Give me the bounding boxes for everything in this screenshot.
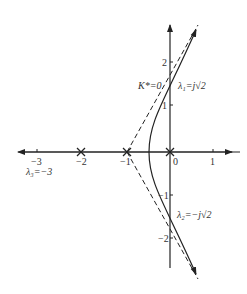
lambda1-label: λ₁=j√2 xyxy=(177,80,206,91)
x-label-m1: −1 xyxy=(120,156,131,167)
x-label-1: 1 xyxy=(210,156,215,167)
root-locus-diagram: −3 −2 −1 0 1 2 1 −1 −2 K*=0 λ₁=j√2 λ₂=−j… xyxy=(0,0,247,294)
locus-branch-upper xyxy=(149,30,196,152)
y-label-2: 2 xyxy=(162,57,167,68)
y-label-m2: −2 xyxy=(158,233,169,244)
x-label-m2: −2 xyxy=(76,156,87,167)
lambda3-label: λ₃=−3 xyxy=(25,166,52,177)
x-label-0: 0 xyxy=(173,156,178,167)
k-zero-label: K*=0 xyxy=(137,80,161,91)
lambda2-label: λ₂=−j√2 xyxy=(176,209,212,220)
y-label-1: 1 xyxy=(162,100,167,111)
y-label-m1: −1 xyxy=(158,190,169,201)
